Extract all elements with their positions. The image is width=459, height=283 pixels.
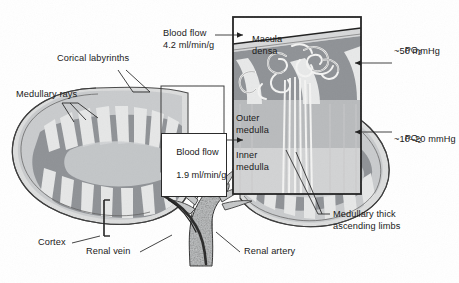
- label-medullary-rays: Medullary rays: [16, 89, 77, 100]
- callout-po2-cortex-value: ~50 mmHg: [394, 46, 440, 57]
- kidney-blood-flow-figure: Corical labyrinths Medullary rays Cortex…: [0, 0, 459, 283]
- label-outer-medulla-line1: Outer: [236, 113, 259, 124]
- diagram-artwork: [0, 0, 459, 283]
- label-cortical-labyrinths: Corical labyrinths: [57, 53, 129, 64]
- label-macula-densa-line1: Macula: [252, 34, 282, 45]
- callout-blood-flow-cortex-line1: Blood flow: [163, 28, 206, 39]
- label-outer-medulla-line2: medulla: [236, 125, 269, 136]
- label-mtal-line2: ascending limbs: [333, 221, 400, 232]
- callout-blood-flow-cortex-line2: 4.2 ml/min/g: [163, 40, 214, 51]
- callout-blood-flow-medulla-box: Blood flow 1.9 ml/min/g: [161, 133, 227, 197]
- label-macula-densa-line2: densa: [252, 46, 278, 57]
- label-cortex: Cortex: [38, 237, 66, 248]
- label-inner-medulla-line2: medulla: [236, 162, 269, 173]
- label-renal-artery: Renal artery: [244, 246, 295, 257]
- label-inner-medulla-line1: Inner: [236, 150, 257, 161]
- label-renal-vein: Renal vein: [86, 246, 130, 257]
- label-mtal-line1: Medullary thick: [333, 209, 396, 220]
- callout-po2-medulla-value: ~10–20 mmHg: [394, 134, 456, 145]
- callout-blood-flow-medulla-line2: 1.9 ml/min/g: [176, 170, 226, 180]
- callout-blood-flow-medulla-line1: Blood flow: [176, 147, 218, 157]
